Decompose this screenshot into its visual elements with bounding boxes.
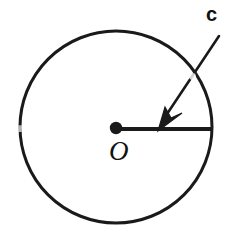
- radius-annotation-label: c: [206, 3, 217, 25]
- center-point-label: O: [109, 136, 129, 166]
- figure-canvas: [0, 0, 249, 236]
- center-dot-icon: [110, 122, 122, 134]
- geometry-figure: O c: [0, 0, 249, 236]
- leader-circle-crossing-artifact: [189, 73, 196, 80]
